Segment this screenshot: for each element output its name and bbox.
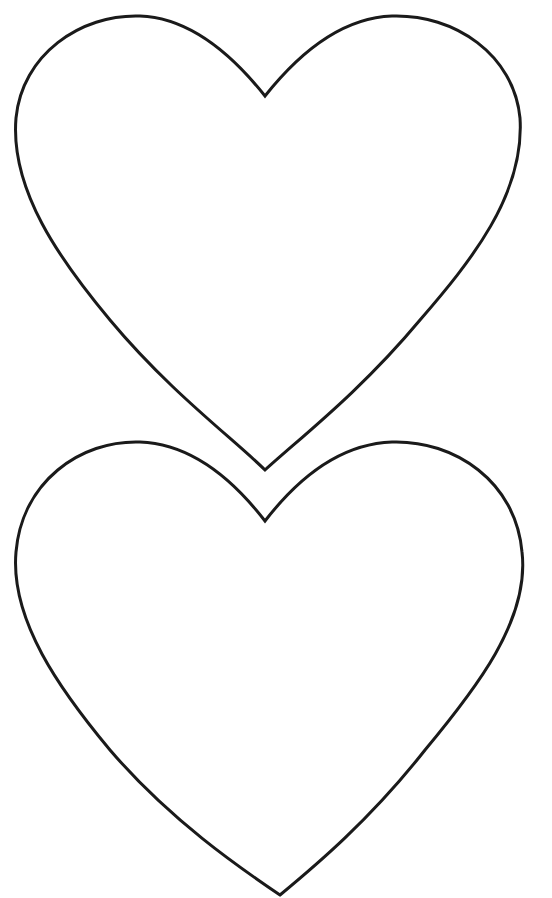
hearts-drawing [0,0,552,898]
heart-outline-bottom-icon [16,442,523,895]
coloring-page [0,0,552,898]
heart-outline-top-icon [16,16,521,470]
